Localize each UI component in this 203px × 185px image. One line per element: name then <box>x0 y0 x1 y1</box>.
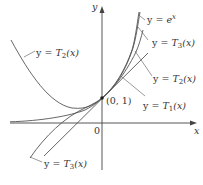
label-t1: y = T1(x) <box>142 100 186 113</box>
taylor-polynomials-diagram: x y 0 (0, 1) y = ex y = T3(x) y = T2(x) … <box>0 0 203 185</box>
axes: x y 0 <box>10 1 200 170</box>
x-axis-label: x <box>194 125 200 136</box>
y-axis-arrow-icon <box>100 6 105 13</box>
origin-label: 0 <box>94 125 100 136</box>
label-t3-left: y = T3(x) <box>43 158 87 171</box>
label-t2-right: y = T2(x) <box>152 73 196 86</box>
label-exp: y = ex <box>146 13 176 25</box>
y-axis-label: y <box>91 1 98 12</box>
t3-curve <box>30 12 140 158</box>
t1-line <box>44 53 148 156</box>
point-label: (0, 1) <box>106 95 132 106</box>
label-t2-left: y = T2(x) <box>35 47 79 60</box>
label-t3-right: y = T3(x) <box>151 37 195 50</box>
point-0-1 <box>100 96 104 100</box>
curves <box>10 12 148 158</box>
